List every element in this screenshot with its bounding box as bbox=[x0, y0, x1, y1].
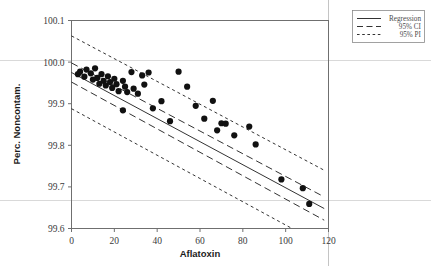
chart-figure: 99.699.799.899.9100.0100.1 0204060801001… bbox=[0, 0, 431, 266]
data-point bbox=[81, 74, 87, 80]
data-point bbox=[214, 127, 220, 133]
x-tick-label: 120 bbox=[321, 236, 336, 246]
y-tick-label: 99.8 bbox=[48, 141, 65, 151]
data-point bbox=[193, 103, 199, 109]
data-point bbox=[231, 132, 237, 138]
prediction-interval-upper-line bbox=[72, 36, 325, 170]
legend-label-pi: 95% PI bbox=[400, 31, 422, 39]
data-point bbox=[246, 123, 252, 129]
fit-lines-group bbox=[72, 36, 325, 246]
data-point bbox=[122, 84, 128, 90]
data-point bbox=[306, 201, 312, 207]
data-point bbox=[150, 105, 156, 111]
y-axis-ticks bbox=[68, 21, 72, 229]
data-points-group bbox=[75, 65, 313, 207]
regression-line bbox=[72, 73, 325, 209]
data-point bbox=[98, 71, 104, 77]
data-point bbox=[210, 98, 216, 104]
data-point bbox=[223, 121, 229, 127]
data-point bbox=[92, 65, 98, 71]
y-axis-tick-labels: 99.699.799.899.9100.0100.1 bbox=[43, 16, 65, 234]
prediction-interval-lower-line bbox=[72, 109, 325, 246]
data-point bbox=[77, 69, 83, 75]
x-axis-ticks bbox=[72, 229, 329, 233]
y-axis-title: Perc. Noncontam. bbox=[11, 84, 22, 165]
data-point bbox=[300, 185, 306, 191]
data-point bbox=[113, 81, 119, 87]
plot-frame bbox=[72, 21, 329, 229]
confidence-interval-lower-line bbox=[72, 82, 325, 220]
data-point bbox=[146, 69, 152, 75]
legend-label-ci: 95% CI bbox=[399, 23, 422, 31]
x-axis-tick-labels: 020406080100120 bbox=[69, 236, 336, 246]
data-point bbox=[116, 88, 122, 94]
y-tick-label: 99.6 bbox=[48, 224, 65, 234]
scatter-plot-svg: 99.699.799.899.9100.0100.1 0204060801001… bbox=[0, 0, 431, 266]
x-tick-label: 80 bbox=[238, 236, 248, 246]
data-point bbox=[253, 141, 259, 147]
x-tick-label: 20 bbox=[110, 236, 120, 246]
data-point bbox=[135, 91, 141, 97]
data-point bbox=[120, 107, 126, 113]
data-point bbox=[111, 76, 117, 82]
data-point bbox=[105, 73, 111, 79]
y-tick-label: 100.0 bbox=[43, 58, 65, 68]
x-tick-label: 40 bbox=[152, 236, 162, 246]
x-tick-label: 100 bbox=[279, 236, 294, 246]
data-point bbox=[128, 69, 134, 75]
data-point bbox=[131, 86, 137, 92]
y-tick-label: 99.9 bbox=[48, 99, 65, 109]
data-point bbox=[158, 98, 164, 104]
legend-label-regression: Regression bbox=[389, 15, 421, 23]
data-point bbox=[175, 69, 181, 75]
data-point bbox=[201, 116, 207, 122]
x-axis-title: Aflatoxin bbox=[180, 248, 221, 259]
y-tick-label: 99.7 bbox=[48, 182, 65, 192]
data-point bbox=[120, 78, 126, 84]
x-tick-label: 60 bbox=[195, 236, 205, 246]
data-point bbox=[167, 118, 173, 124]
data-point bbox=[139, 72, 145, 78]
y-tick-label: 100.1 bbox=[43, 16, 65, 26]
x-tick-label: 0 bbox=[69, 236, 74, 246]
data-point bbox=[88, 70, 94, 76]
data-point bbox=[278, 176, 284, 182]
data-point bbox=[124, 89, 130, 95]
legend: Regression 95% CI 95% PI bbox=[353, 11, 425, 43]
data-point bbox=[184, 84, 190, 90]
data-point bbox=[141, 81, 147, 87]
